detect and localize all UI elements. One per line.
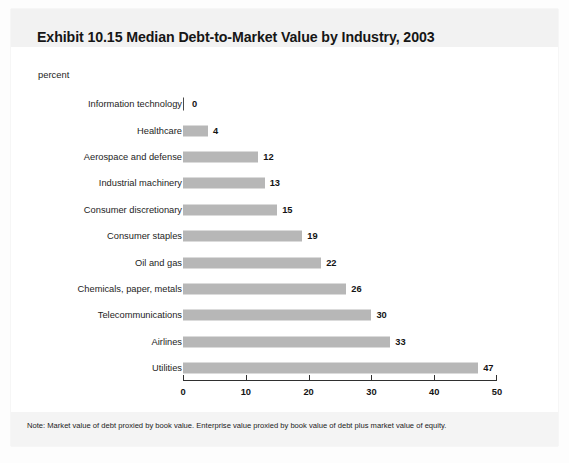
bar-value-label: 13 [270,178,280,188]
category-label: Airlines [152,337,182,347]
chart-row: Aerospace and defense12 [11,144,558,170]
bar [183,151,258,162]
bar [183,336,390,347]
chart-row: Chemicals, paper, metals26 [11,276,558,302]
chart-row: Telecommunications30 [11,302,558,328]
chart-row: Information technology0 [11,91,558,117]
x-axis-tick-label: 40 [429,387,439,397]
chart-row: Oil and gas22 [11,249,558,275]
x-axis-tick [371,375,372,380]
bar [183,125,208,136]
bar [183,310,371,321]
x-axis-tick-label: 10 [241,387,251,397]
bar-value-label: 19 [307,231,317,241]
bar [183,283,346,294]
page-background: Exhibit 10.15 Median Debt-to-Market Valu… [0,0,569,463]
category-label: Utilities [152,363,182,373]
x-axis-tick [246,375,247,380]
x-axis-tick [309,375,310,380]
bar [183,204,277,215]
chart-row: Utilities47 [11,355,558,381]
x-axis-tick-label: 0 [180,387,185,397]
category-label: Consumer discretionary [84,205,182,215]
bar [183,231,302,242]
x-axis-line [183,380,497,381]
category-label: Oil and gas [135,258,182,268]
chart-row: Healthcare4 [11,117,558,143]
chart-row: Airlines33 [11,329,558,355]
category-label: Information technology [88,99,182,109]
exhibit-sheet: Exhibit 10.15 Median Debt-to-Market Valu… [11,9,558,446]
bar-value-label: 15 [282,205,292,215]
category-label: Telecommunications [98,310,182,320]
bar-value-label: 47 [483,363,493,373]
bar [183,363,478,374]
x-axis-tick [434,375,435,380]
category-label: Consumer staples [107,231,182,241]
bar-value-label: 26 [351,284,361,294]
x-axis-tick [496,375,497,380]
bar-value-label: 33 [395,337,405,347]
bar [183,257,321,268]
footnote: Note: Market value of debt proxied by bo… [27,421,446,430]
bar-value-label: 4 [213,126,218,136]
bar [183,98,184,111]
chart-row: Consumer staples19 [11,223,558,249]
bar [183,178,265,189]
x-axis-tick-label: 30 [366,387,376,397]
chart-row: Industrial machinery13 [11,170,558,196]
x-axis-tick-label: 50 [492,387,502,397]
category-label: Healthcare [137,126,182,136]
bar-value-label: 30 [376,310,386,320]
bar-value-label: 22 [326,258,336,268]
category-label: Aerospace and defense [84,152,182,162]
bar-value-label: 12 [263,152,273,162]
x-axis-tick [183,375,184,380]
category-label: Industrial machinery [99,178,182,188]
chart-row: Consumer discretionary15 [11,197,558,223]
category-label: Chemicals, paper, metals [78,284,182,294]
x-axis-tick-label: 20 [303,387,313,397]
bar-value-label: 0 [192,99,197,109]
